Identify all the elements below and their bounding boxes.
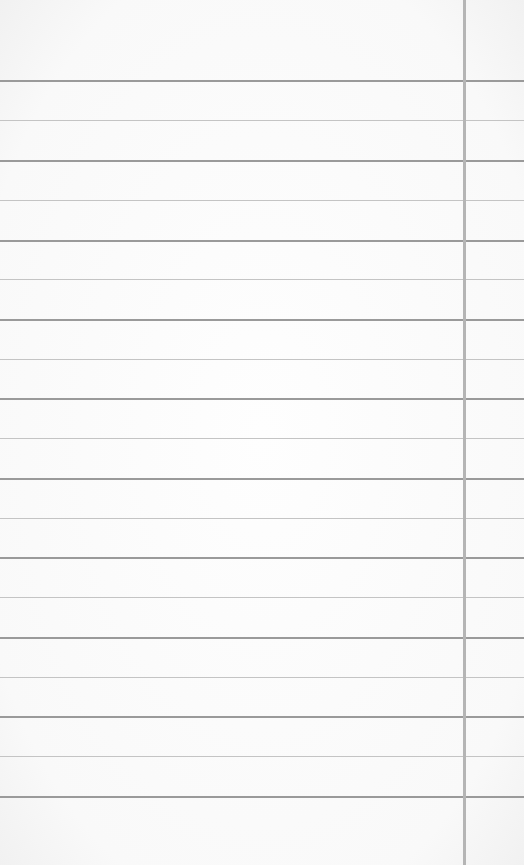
margin-line	[463, 0, 466, 865]
ruled-line	[0, 200, 524, 201]
ruled-line	[0, 120, 524, 121]
ruled-line	[0, 637, 524, 639]
ruled-line	[0, 240, 524, 242]
ruled-line	[0, 597, 524, 598]
ruled-line	[0, 557, 524, 559]
ruled-line	[0, 160, 524, 162]
ruled-line	[0, 796, 524, 798]
ruled-line	[0, 756, 524, 757]
ruled-line	[0, 319, 524, 321]
ruled-line	[0, 398, 524, 400]
lined-paper	[0, 0, 524, 865]
ruled-line	[0, 80, 524, 82]
ruled-line	[0, 478, 524, 480]
ruled-line	[0, 677, 524, 678]
ruled-line	[0, 716, 524, 718]
ruled-line	[0, 359, 524, 360]
ruled-line	[0, 279, 524, 280]
ruled-line	[0, 518, 524, 519]
ruled-line	[0, 438, 524, 439]
